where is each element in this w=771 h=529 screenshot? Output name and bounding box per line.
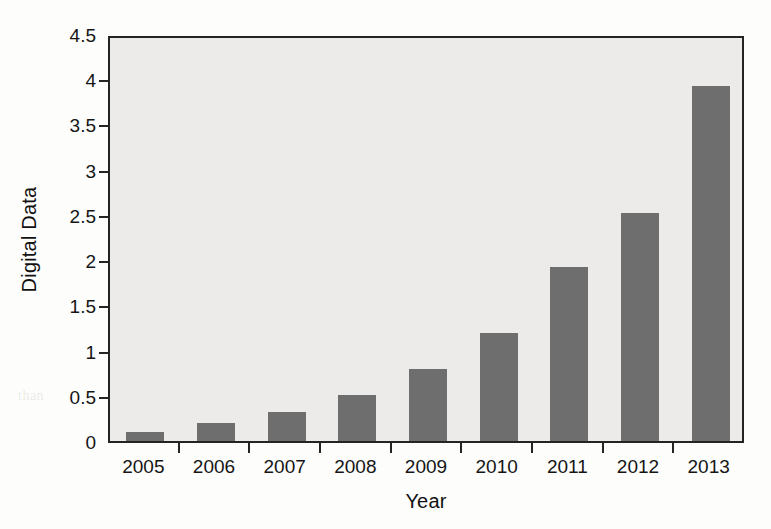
x-tick-label-2010: 2010 [476, 456, 518, 478]
y-tick-label: 4.5 [70, 25, 96, 47]
y-tick-label: 3 [85, 161, 96, 183]
x-tick-label-2011: 2011 [547, 456, 588, 478]
y-tick-label: 0.5 [70, 387, 96, 409]
x-tick-mark [248, 443, 250, 453]
x-tick-label-2013: 2013 [688, 456, 730, 478]
y-tick-label: 2.5 [70, 206, 96, 228]
bar-2012 [621, 213, 659, 441]
bar-2007 [268, 412, 306, 441]
x-axis-tick-marks [108, 443, 744, 455]
x-tick-mark [178, 443, 180, 453]
x-tick-label-2005: 2005 [122, 456, 164, 478]
x-tick-label-2006: 2006 [193, 456, 235, 478]
bar-2013 [692, 86, 730, 441]
x-tick-mark [531, 443, 533, 453]
bar-2005 [126, 432, 164, 441]
x-axis-label: Year [108, 490, 744, 513]
plot-area [108, 36, 744, 443]
bars-container [110, 38, 742, 441]
x-tick-mark [319, 443, 321, 453]
bar-2010 [480, 333, 518, 441]
x-tick-mark [672, 443, 674, 453]
y-axis-tick-labels: 00.511.522.533.544.5 [46, 36, 96, 443]
y-tick-label: 1.5 [70, 296, 96, 318]
x-tick-label-2007: 2007 [264, 456, 306, 478]
y-axis-label: Digital Data [14, 36, 44, 443]
y-tick-label: 2 [85, 251, 96, 273]
x-tick-mark [390, 443, 392, 453]
bar-2008 [338, 395, 376, 441]
bar-2006 [197, 423, 235, 441]
x-axis-tick-labels: 200520062007200820092010201120122013 [108, 456, 744, 484]
x-tick-mark [602, 443, 604, 453]
y-tick-label: 0 [85, 432, 96, 454]
x-tick-label-2008: 2008 [334, 456, 376, 478]
x-tick-label-2012: 2012 [617, 456, 659, 478]
y-tick-label: 4 [85, 70, 96, 92]
y-tick-label: 1 [85, 342, 96, 364]
x-tick-mark [460, 443, 462, 453]
x-tick-label-2009: 2009 [405, 456, 447, 478]
chart-page: to obtain a deeper knowledge that the us… [0, 0, 771, 529]
bar-2009 [409, 369, 447, 441]
y-tick-label: 3.5 [70, 115, 96, 137]
bar-2011 [550, 267, 588, 441]
